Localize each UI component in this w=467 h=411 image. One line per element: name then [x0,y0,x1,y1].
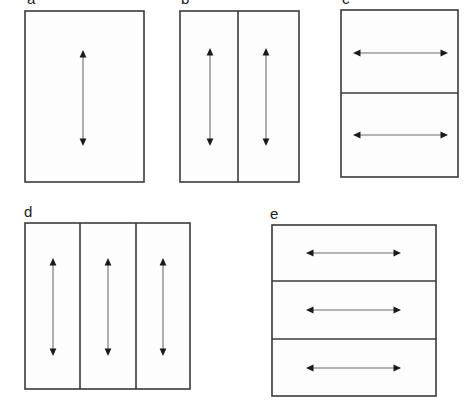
figure-root: abcde [0,0,467,411]
panel-e: e [270,205,436,396]
panel-d: d [24,203,190,389]
panel-e-label: e [270,205,278,222]
panel-b: b [180,0,299,182]
panel-a-label: a [27,0,36,7]
panel-c-label: c [342,0,350,7]
panel-diagram-canvas: abcde [0,0,467,411]
panel-d-label: d [24,203,32,220]
panel-c: c [341,0,458,177]
panel-b-label: b [181,0,189,7]
panel-b-box [180,11,299,182]
panel-a-box [25,11,144,182]
panel-a: a [25,0,144,182]
